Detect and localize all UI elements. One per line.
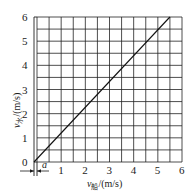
chart: 123456 123456 a 0 v船/(m/s) v水/(m/s) <box>0 0 195 196</box>
x-tick-label: 4 <box>131 164 137 176</box>
x-axis-ticks: 123456 <box>58 164 185 176</box>
offset-label: a <box>42 159 47 170</box>
x-axis-label: v船/(m/s) <box>87 178 122 191</box>
x-tick-label: 3 <box>107 164 113 176</box>
x-tick-label: 6 <box>179 164 185 176</box>
y-tick-label: 3 <box>22 84 28 96</box>
x-tick-label: 1 <box>58 164 64 176</box>
x-tick-label: 5 <box>155 164 161 176</box>
y-tick-label: 4 <box>22 59 28 71</box>
y-tick-label: 6 <box>22 11 28 23</box>
origin-label: 0 <box>22 156 28 168</box>
x-tick-label: 2 <box>82 164 88 176</box>
y-tick-label: 5 <box>22 35 28 47</box>
grid <box>34 17 182 162</box>
y-tick-label: 1 <box>22 132 28 144</box>
